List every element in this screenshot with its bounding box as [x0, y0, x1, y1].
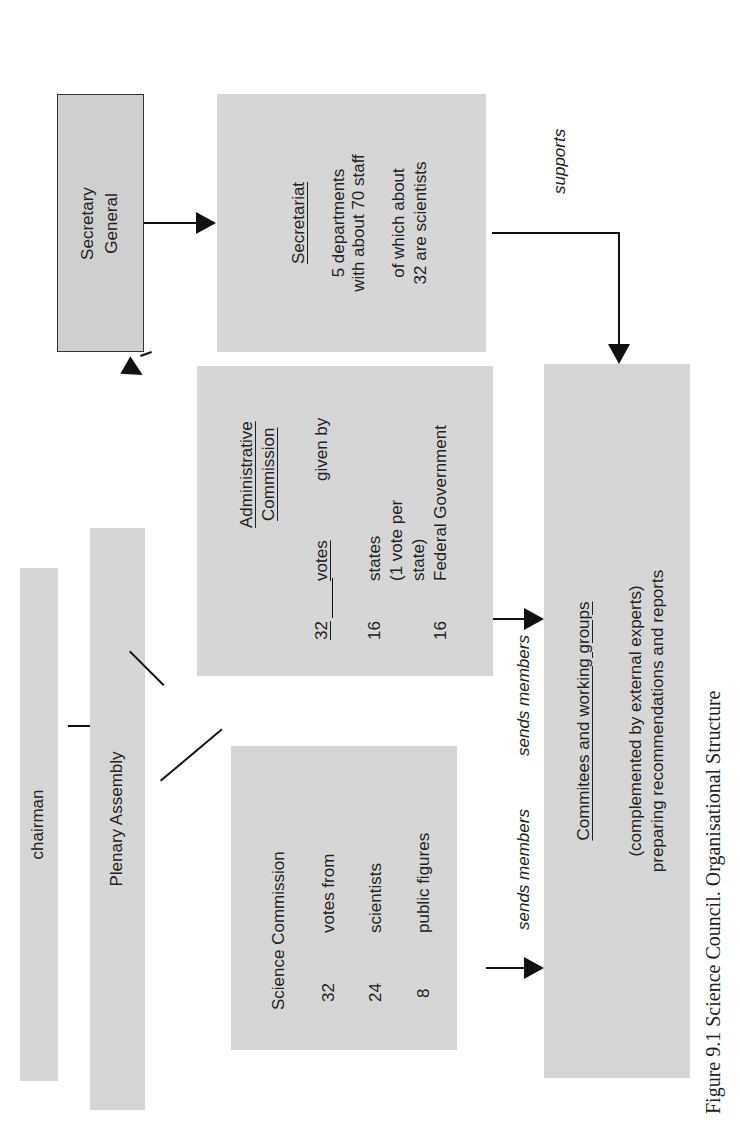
supports-label: supports: [550, 129, 570, 194]
sends-members-admin-label: sends members: [514, 635, 534, 756]
committees-box: Commitees and working groups (complement…: [544, 364, 690, 1078]
secretariat-line3: of which about: [389, 94, 409, 352]
arrow-down-icon: [196, 212, 216, 234]
chairman-box: chairman: [20, 568, 58, 1081]
administrative-commission-box: Administrative Commission 32 votes given…: [197, 366, 493, 676]
science-row-public-num: 8: [414, 989, 434, 998]
science-commission-title: Science Commission: [269, 851, 289, 1010]
admin-votes-underline: [332, 578, 333, 618]
sends-members-science-label: sends members: [514, 809, 534, 930]
chairman-label: chairman: [28, 568, 48, 1081]
plenary-science-connector: [160, 729, 223, 782]
secretary-general-line1: Secretary: [78, 96, 98, 351]
plenary-assembly-label: Plenary Assembly: [107, 528, 127, 1110]
science-row-votes-num: 32: [319, 983, 339, 1002]
plenary-assembly-box: Plenary Assembly: [90, 528, 145, 1110]
secretariat-line4: 32 are scientists: [411, 94, 431, 352]
arrow-icon: [120, 356, 147, 383]
arrow-down-icon-admin: [524, 608, 544, 630]
figure-caption: Figure 9.1 Science Council. Organisation…: [702, 691, 725, 1114]
science-row-scientists-num: 24: [366, 983, 386, 1002]
admin-row-state-text: state): [409, 538, 429, 581]
committees-title: Commitees and working groups: [574, 364, 594, 1078]
secgen-secretariat-line: [144, 222, 200, 224]
admin-row-states-num: 16: [365, 621, 385, 640]
arrow-down-icon-science: [524, 957, 544, 979]
science-row-public-text: public figures: [414, 833, 434, 933]
admin-row-votes-text: votes: [312, 540, 332, 581]
secretariat-line2: with about 70 staff: [349, 94, 369, 352]
secretary-general-line2: General: [102, 96, 122, 351]
chairman-plenary-connector: [68, 725, 90, 727]
supports-line-horizontal: [492, 232, 620, 234]
admin-row-federal-text: Federal Government: [431, 425, 451, 581]
admin-row-federal-num: 16: [431, 621, 451, 640]
arrow-right-icon: [608, 344, 630, 364]
admin-row-votes-num: 32: [312, 621, 332, 640]
secretariat-line1: 5 departments: [329, 94, 349, 352]
science-commission-box: Science Commission 32 votes from 24 scie…: [231, 746, 457, 1050]
committees-line2: preparing recommendations and reports: [648, 364, 668, 1078]
supports-line-vertical: [618, 232, 620, 344]
org-chart-diagram: chairman Plenary Assembly Secretary Gene…: [0, 0, 740, 1144]
science-row-scientists-text: scientists: [366, 863, 386, 933]
committees-line1: (complemented by external experts): [626, 364, 646, 1078]
secretariat-box: Secretariat 5 departments with about 70 …: [217, 94, 486, 352]
admin-row-states-text: states: [365, 536, 385, 581]
admin-row-votes-extra: given by: [312, 418, 332, 481]
admin-commission-title-line1: Administrative: [237, 421, 257, 528]
science-row-votes-text: votes from: [319, 854, 339, 933]
secretary-general-box: Secretary General: [57, 94, 144, 352]
admin-commission-title-line2: Commission: [259, 427, 279, 521]
admin-row-vote-per-text: (1 vote per: [387, 500, 407, 581]
science-committees-line: [486, 967, 528, 969]
secretariat-title: Secretariat: [289, 94, 309, 352]
